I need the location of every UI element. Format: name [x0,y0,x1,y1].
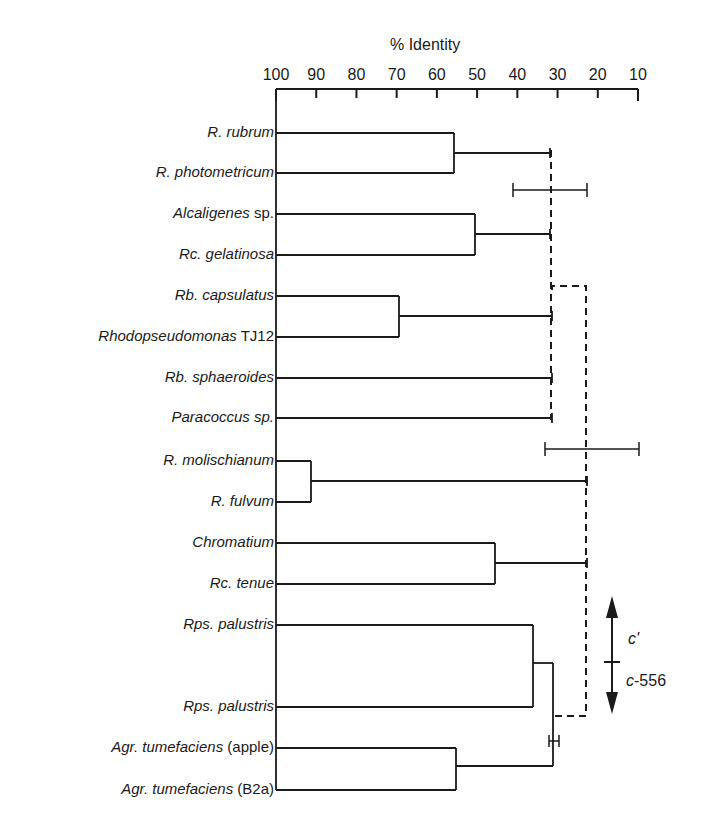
double-arrow-icon [604,596,620,714]
annotation-c556-italic: c [626,672,634,689]
annotation-c-prime: c' [628,630,639,648]
x-axis [276,89,638,101]
dashed-connectors [551,150,586,716]
error-bars [513,183,639,747]
annotation-c556: c-556 [626,672,666,690]
dendrogram [0,0,710,833]
annotation-c556-plain: -556 [634,672,666,689]
tree-branches [276,90,587,790]
